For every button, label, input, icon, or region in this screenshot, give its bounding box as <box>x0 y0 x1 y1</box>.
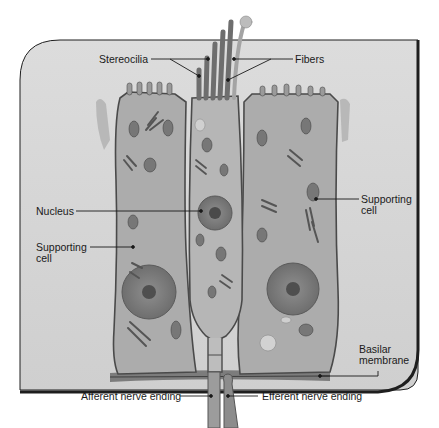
supporting-cell-right <box>238 84 350 374</box>
label-supporting-cell-right-line2: cell <box>361 205 412 216</box>
label-supporting-cell-left-line2: cell <box>36 253 87 264</box>
label-nucleus: Nucleus <box>36 206 74 217</box>
label-fibers: Fibers <box>295 54 324 65</box>
label-supporting-cell-left: Supporting cell <box>36 242 87 264</box>
label-basilar-membrane: Basilar membrane <box>359 344 409 366</box>
label-basilar-membrane-line2: membrane <box>359 355 409 366</box>
label-supporting-cell-right: Supporting cell <box>361 194 412 216</box>
label-efferent-nerve-ending: Efferent nerve ending <box>262 391 362 402</box>
label-afferent-nerve-ending: Afferent nerve ending <box>81 391 181 402</box>
hair-cell-diagram: Stereocilia Fibers Nucleus Supporting ce… <box>0 0 439 428</box>
label-stereocilia: Stereocilia <box>99 54 148 65</box>
